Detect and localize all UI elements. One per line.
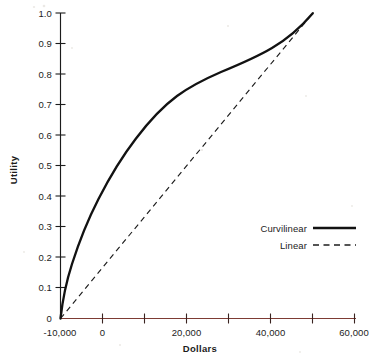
y-tick-label-0-3: 0.3 (38, 221, 52, 232)
y-axis-title: Utility (8, 155, 19, 184)
y-tick-label-0: 0 (47, 313, 52, 324)
legend-label-curvilinear: Curvilinear (260, 223, 307, 234)
legend-label-linear: Linear (280, 240, 307, 251)
y-tick-label-1-0: 1.0 (38, 8, 52, 19)
y-tick-label-0-9: 0.9 (38, 38, 52, 49)
x-tick-label-20000: 20,000 (172, 327, 202, 338)
x-tick-label-0: 0 (100, 327, 105, 338)
y-tick-label-0-1: 0.1 (38, 282, 52, 293)
x-axis-title: Dollars (183, 343, 217, 354)
y-tick-label-0-7: 0.7 (38, 99, 52, 110)
y-tick-label-0-2: 0.2 (38, 252, 52, 263)
x-tick-label-60000: 60,000 (339, 327, 369, 338)
chart-canvas: 1.0 0.9 0.8 0.7 0.6 0.5 0.4 0.3 0.2 0.1 … (0, 0, 381, 361)
x-tick-label-minus-10000: -10,000 (44, 327, 77, 338)
x-tick-label-40000: 40,000 (256, 327, 286, 338)
utility-vs-dollars-chart: 1.0 0.9 0.8 0.7 0.6 0.5 0.4 0.3 0.2 0.1 … (0, 0, 381, 361)
y-tick-label-0-4: 0.4 (38, 191, 52, 202)
y-tick-label-0-6: 0.6 (38, 130, 52, 141)
y-tick-label-0-8: 0.8 (38, 69, 52, 80)
y-tick-label-0-5: 0.5 (38, 160, 52, 171)
chart-background (0, 0, 381, 361)
